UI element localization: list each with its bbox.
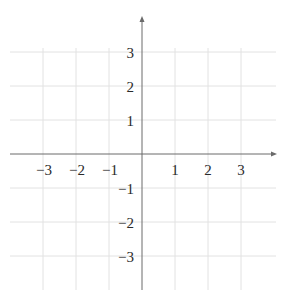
coordinate-plane: −3 −2 −1 1 2 3 3 2 1 −1 −2 −3: [0, 0, 286, 300]
y-tick-label: −1: [118, 181, 134, 197]
y-tick-label: 1: [127, 113, 135, 129]
y-tick-label: 2: [127, 79, 135, 95]
axes: [10, 16, 277, 290]
x-axis-arrow-icon: [271, 152, 277, 157]
x-tick-label: −1: [102, 162, 118, 178]
y-tick-labels: 3 2 1 −1 −2 −3: [118, 45, 134, 265]
y-tick-label: −2: [118, 215, 134, 231]
y-axis-arrow-icon: [140, 16, 145, 22]
x-tick-label: 2: [204, 162, 212, 178]
y-tick-label: −3: [118, 249, 134, 265]
x-tick-label: 1: [171, 162, 179, 178]
x-tick-label: 3: [237, 162, 245, 178]
x-tick-labels: −3 −2 −1 1 2 3: [36, 162, 245, 178]
x-tick-label: −2: [69, 162, 85, 178]
y-tick-label: 3: [127, 45, 135, 61]
x-tick-label: −3: [36, 162, 52, 178]
